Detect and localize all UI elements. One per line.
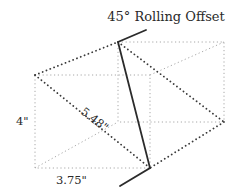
dotted-edge-top-left [35,42,118,75]
dotted-edge-bottom-right [150,122,224,168]
guide-connector-top [150,42,224,75]
diagram-title: 45° Rolling Offset [107,9,225,24]
rolling-offset-diagram: 45° Rolling Offset 4" 5.48" 3.75" [0,0,240,195]
travel-label: 5.48" [78,104,111,134]
dotted-edge-top-right [118,42,224,122]
rise-label: 4" [16,114,29,128]
pipe-line [118,30,150,186]
offset-label: 3.75" [56,173,87,187]
